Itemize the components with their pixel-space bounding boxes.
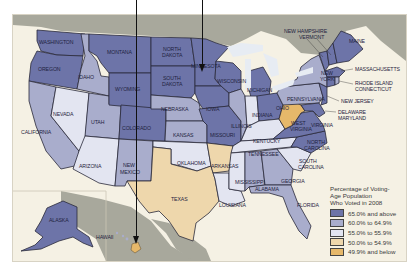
label-tennessee: TENNESSEE [248,151,279,157]
label-maryland: MARYLAND [338,115,366,121]
legend-title-line: Percentage of Voting- [330,185,407,192]
label-missouri: MISSOURI [210,132,235,138]
label-california: CALIFORNIA [21,129,52,135]
legend-title: Percentage of Voting- Age Population Who… [330,185,407,207]
legend-swatch [330,229,344,237]
label-mississippi: MISSISSIPPI [235,179,265,185]
label-kansas: KANSAS [173,132,194,138]
label-south-dakota-2: DAKOTA [162,81,183,87]
label-nebraska: NEBRASKA [161,106,189,112]
label-vermont: VERMONT [299,34,325,40]
pointer-line-right [202,0,203,66]
label-north-carolina-2: CAROLINA [304,145,330,151]
legend-swatch [330,209,344,217]
label-minnesota: MINNESOTA [191,63,221,69]
legend-swatch [330,219,344,227]
label-montana: MONTANA [107,49,132,55]
label-washington: WASHINGTON [39,39,74,45]
label-alaska: ALASKA [49,217,69,223]
label-arkansas: ARKANSAS [211,163,239,169]
label-indiana: INDIANA [252,112,273,118]
label-south-carolina-2: CAROLINA [298,164,324,170]
label-utah: UTAH [91,119,105,125]
arrow-head-right [199,64,205,72]
label-illinois: ILLINOIS [231,123,252,129]
label-connecticut: CONNECTICUT [355,86,393,92]
state-colorado[interactable] [119,105,166,141]
arrow-head-left [133,236,139,244]
label-louisiana: LOUISIANA [219,202,246,208]
label-idaho: IDAHO [78,74,94,80]
legend-swatch [330,248,344,256]
legend-item: 65.0% and above [330,209,407,219]
label-florida: FLORIDA [297,202,319,208]
label-oklahoma: OKLAHOMA [177,160,206,166]
legend-title-line: Who Voted in 2008 [330,199,407,206]
legend-item: 60.0% to 64.9% [330,218,407,228]
label-pennsylvania: PENNSYLVANIA [287,96,325,102]
label-west-virginia-2: VIRGINIA [290,126,313,132]
label-new-york-2: YORK [320,76,335,82]
legend-item: 49.9% and below [330,247,407,257]
label-massachusetts: MASSACHUSETTS [355,66,400,72]
label-oregon: OREGON [38,66,61,72]
label-ohio: OHIO [276,105,289,111]
legend: Percentage of Voting- Age Population Who… [330,185,407,257]
legend-label: 49.9% and below [348,248,395,255]
label-north-dakota-2: DAKOTA [162,52,183,58]
label-nevada: NEVADA [53,111,74,117]
label-iowa: IOWA [206,106,220,112]
legend-item: 50.0% to 54.9% [330,237,407,247]
legend-title-line: Age Population [330,192,407,199]
legend-label: 55.0% to 55.9% [348,229,392,236]
legend-label: 60.0% to 64.9% [348,219,392,226]
legend-swatch [330,238,344,246]
label-georgia: GEORGIA [281,178,305,184]
label-new-mexico-1: NEW [123,162,135,168]
legend-item: 55.0% to 55.9% [330,228,407,238]
label-new-jersey: NEW JERSEY [341,98,374,104]
label-hawaii: HAWAII [96,234,113,240]
label-texas: TEXAS [171,196,188,202]
state-maine[interactable] [333,31,363,63]
label-virginia: VIRGINIA [311,122,334,128]
state-rhode-island[interactable] [335,77,339,85]
label-alabama: ALABAMA [255,186,279,192]
state-mississippi[interactable] [229,152,245,191]
pointer-line-left [136,0,137,238]
label-kentucky: KENTUCKY [253,138,281,144]
legend-label: 50.0% to 54.9% [348,239,392,246]
label-arizona: ARIZONA [79,163,102,169]
legend-label: 65.0% and above [348,210,396,217]
label-michigan: MICHIGAN [247,87,272,93]
label-wisconsin: WISCONSIN [217,78,246,84]
label-maine: MAINE [349,38,366,44]
map-frame: WASHINGTON OREGON IDAHO MONTANA WYOMING … [12,14,407,262]
state-florida[interactable] [249,185,311,239]
